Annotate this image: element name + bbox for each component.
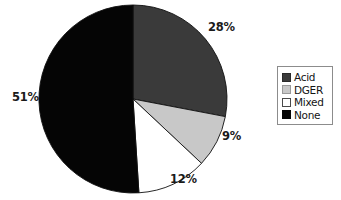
legend-item-acid: Acid [282,71,329,84]
legend-label-mixed: Mixed [294,97,324,108]
legend-label-none: None [294,110,320,121]
pie-slice-group [39,5,227,193]
slice-value-label-acid: 28% [208,22,235,34]
legend-swatch-mixed-icon [282,98,291,107]
slice-value-label-none: 51% [12,92,39,104]
legend-swatch-none-icon [282,110,291,119]
pie-chart-figure: 28% 9% 12% 51% Acid DGER Mixed None [0,0,341,200]
slice-value-label-mixed: 12% [170,174,197,186]
legend-label-dger: DGER [294,85,323,96]
legend-swatch-dger-icon [282,85,291,94]
legend-label-acid: Acid [294,72,315,83]
legend-item-mixed: Mixed [282,96,329,109]
chart-legend: Acid DGER Mixed None [277,66,333,125]
legend-item-dger: DGER [282,84,329,97]
legend-item-none: None [282,109,329,122]
pie-slice-none [39,5,139,193]
slice-value-label-dger: 9% [222,131,241,143]
legend-swatch-acid-icon [282,73,291,82]
